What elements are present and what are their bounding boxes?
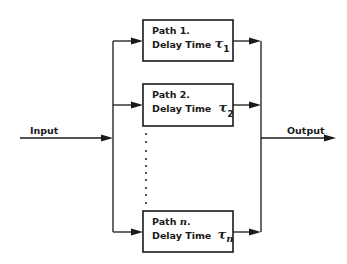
input-label: Input xyxy=(30,125,59,136)
path-n-block: Path n. Delay Time τn xyxy=(113,211,261,252)
path-2-name: Path 2. xyxy=(152,89,190,100)
output-label: Output xyxy=(287,125,325,136)
path-1-block: Path 1. Delay Time τ1 xyxy=(113,20,261,61)
multipath-delay-diagram: Input Output Path 1. Delay Time τ1 Path … xyxy=(0,0,347,264)
path-1-name: Path 1. xyxy=(152,25,190,36)
path-2-block: Path 2. Delay Time τ2 xyxy=(113,84,261,126)
vertical-ellipsis-icon xyxy=(145,133,147,204)
path-n-name: Path n. xyxy=(152,216,191,227)
